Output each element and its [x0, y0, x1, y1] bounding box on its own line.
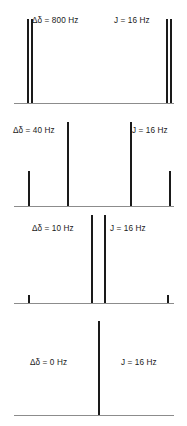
spectrum-peak [98, 321, 100, 415]
nmr-spectra-figure: Δδ = 800 HzJ = 16 HzΔδ = 40 HzJ = 16 HzΔ… [0, 0, 187, 426]
coupling-constant-label: J = 16 Hz [121, 358, 157, 368]
delta-shift-label: Δδ = 0 Hz [30, 358, 67, 368]
spectrum-panel-0hz: Δδ = 0 HzJ = 16 Hz [0, 0, 187, 426]
spectrum-baseline [14, 415, 174, 416]
